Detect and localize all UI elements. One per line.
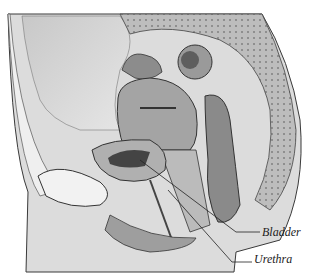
- label-urethra: Urethra: [254, 252, 292, 267]
- label-bladder: Bladder: [262, 225, 301, 240]
